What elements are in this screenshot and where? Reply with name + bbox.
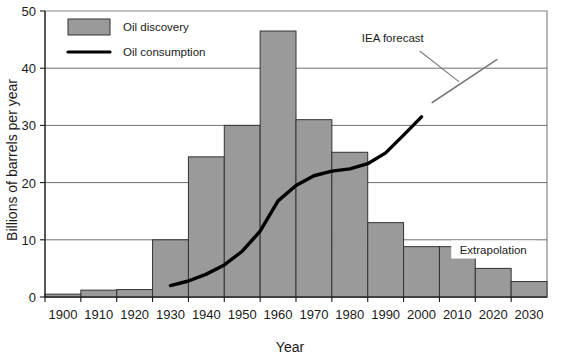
bar — [117, 290, 153, 297]
x-tick-label: 2020 — [479, 307, 508, 322]
x-axis-title: Year — [276, 339, 305, 355]
legend-label: Oil consumption — [123, 46, 205, 58]
y-tick-label: 30 — [22, 118, 36, 133]
x-tick-label: 2030 — [515, 307, 544, 322]
y-axis-ticks: 01020304050 — [22, 4, 45, 305]
bar — [332, 152, 368, 297]
bar — [296, 120, 332, 297]
bar — [404, 247, 440, 297]
x-tick-label: 1950 — [228, 307, 257, 322]
x-tick-label: 1990 — [371, 307, 400, 322]
x-tick-label: 1920 — [120, 307, 149, 322]
y-axis-title: Billions of barrels per year — [4, 79, 20, 241]
y-tick-label: 50 — [22, 4, 36, 19]
chart-canvas: 1900191019201930194019501960197019801990… — [0, 0, 563, 359]
bar — [368, 223, 404, 297]
bar — [260, 31, 296, 297]
y-tick-label: 0 — [29, 290, 36, 305]
x-tick-label: 1900 — [48, 307, 77, 322]
bar — [188, 157, 224, 297]
x-tick-label: 1960 — [264, 307, 293, 322]
x-tick-label: 1970 — [299, 307, 328, 322]
x-tick-label: 2000 — [407, 307, 436, 322]
y-tick-label: 20 — [22, 176, 36, 191]
x-tick-label: 1980 — [335, 307, 364, 322]
bar — [224, 125, 260, 297]
bar — [81, 290, 117, 297]
legend-swatch-oil-discovery — [68, 19, 110, 35]
y-tick-label: 10 — [22, 233, 36, 248]
extrapolation-label: Extrapolation — [460, 244, 527, 256]
bar — [511, 282, 547, 297]
y-tick-label: 40 — [22, 61, 36, 76]
x-tick-label: 1910 — [84, 307, 113, 322]
x-tick-label: 2010 — [443, 307, 472, 322]
x-tick-label: 1930 — [156, 307, 185, 322]
oil-discovery-consumption-chart: 1900191019201930194019501960197019801990… — [0, 0, 563, 359]
bar — [153, 240, 189, 297]
legend-label: Oil discovery — [123, 21, 189, 33]
x-axis-ticks: 1900191019201930194019501960197019801990… — [45, 297, 544, 322]
bar — [475, 268, 511, 297]
x-tick-label: 1940 — [192, 307, 221, 322]
iea-forecast-label: IEA forecast — [362, 32, 425, 44]
